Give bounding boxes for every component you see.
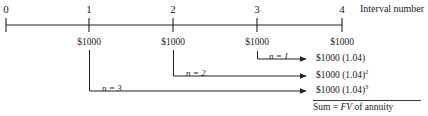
period-3-result-base: $1000 (1.04) bbox=[316, 85, 365, 95]
period-2-n-label: n = 2 bbox=[186, 69, 206, 78]
annuity-timeline-figure: 0 1 2 3 4 Interval number $1000 $1000 $1… bbox=[0, 0, 428, 116]
sum-fv-term: FV bbox=[341, 102, 353, 112]
cash-flow-label-4: $1000 bbox=[319, 38, 365, 48]
cash-flow-label-2: $1000 bbox=[150, 38, 196, 48]
cash-flow-label-3: $1000 bbox=[234, 38, 280, 48]
period-3-result: $1000 (1.04)3 bbox=[316, 86, 368, 96]
period-1-result: $1000 (1.04) bbox=[316, 54, 365, 64]
cash-flow-label-1: $1000 bbox=[66, 38, 112, 48]
period-3-n-label: n = 3 bbox=[102, 84, 122, 93]
sum-prefix: Sum = bbox=[313, 102, 341, 112]
sum-suffix: of annuity bbox=[352, 102, 393, 112]
tick-label-1: 1 bbox=[79, 4, 99, 15]
tick-label-0: 0 bbox=[0, 4, 16, 15]
sum-label: Sum = FV of annuity bbox=[313, 103, 393, 113]
tick-label-3: 3 bbox=[247, 4, 267, 15]
tick-label-4: 4 bbox=[332, 4, 352, 15]
period-2-result-base: $1000 (1.04) bbox=[316, 70, 365, 80]
period-1-n-label: n = 1 bbox=[269, 52, 289, 61]
interval-number-label: Interval number bbox=[360, 4, 424, 14]
period-3-result-exponent: 3 bbox=[365, 83, 368, 90]
period-2-result-exponent: 2 bbox=[365, 68, 368, 75]
tick-label-2: 2 bbox=[163, 4, 183, 15]
period-1-result-base: $1000 (1.04) bbox=[316, 53, 365, 63]
period-2-result: $1000 (1.04)2 bbox=[316, 71, 368, 81]
